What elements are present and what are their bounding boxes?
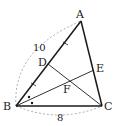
length-bc-label: 8 [57, 112, 63, 123]
label-f: F [63, 83, 71, 96]
angle-dot-upper [28, 96, 30, 98]
label-a: A [75, 8, 85, 21]
label-b: B [3, 100, 11, 113]
segment-be [16, 70, 94, 106]
angle-dot-lower [31, 102, 33, 104]
length-ab-label: 10 [33, 42, 46, 53]
triangle-figure: A B C D E F 10 8 [0, 0, 122, 126]
label-e: E [96, 62, 104, 75]
label-d: D [38, 56, 47, 69]
label-c: C [104, 100, 112, 113]
geometry-diagram: A B C D E F 10 8 [0, 0, 122, 126]
